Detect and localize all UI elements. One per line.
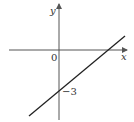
- y-axis-label: y: [49, 5, 56, 16]
- x-axis-label: x: [121, 51, 127, 62]
- y-intercept-label: −3: [62, 86, 77, 97]
- graph-line: [29, 36, 125, 116]
- graph-canvas: y x 0 −3: [0, 0, 134, 122]
- origin-label: 0: [51, 52, 57, 63]
